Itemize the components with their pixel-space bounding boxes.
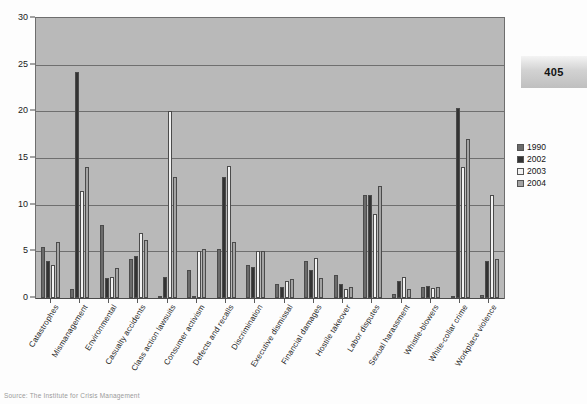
bar-2003 bbox=[431, 288, 435, 298]
bar-1990 bbox=[100, 225, 104, 298]
bar-2004 bbox=[495, 259, 499, 298]
bar-1990 bbox=[421, 287, 425, 298]
bar-2002 bbox=[309, 270, 313, 298]
bar-2003 bbox=[80, 191, 84, 298]
bar-2004 bbox=[144, 240, 148, 298]
legend-item-2003: 2003 bbox=[517, 166, 546, 176]
bar-1990 bbox=[70, 289, 74, 298]
bar-1990 bbox=[217, 249, 221, 298]
bar-group bbox=[153, 18, 182, 298]
legend-item-2002: 2002 bbox=[517, 154, 546, 164]
y-tick-label: 25 bbox=[18, 59, 28, 69]
bar-2002 bbox=[397, 281, 401, 298]
bar-2002 bbox=[163, 277, 167, 298]
bar-2003 bbox=[256, 251, 260, 298]
bar-1990 bbox=[363, 195, 367, 298]
bar-2003 bbox=[285, 281, 289, 298]
bar-2004 bbox=[319, 278, 323, 298]
bar-2003 bbox=[461, 167, 465, 298]
bar-2002 bbox=[134, 256, 138, 298]
y-tick-label: 20 bbox=[18, 105, 28, 115]
bar-2004 bbox=[466, 139, 470, 298]
bar-1990 bbox=[451, 296, 455, 298]
bar-2003 bbox=[110, 277, 114, 298]
legend-label: 1990 bbox=[527, 142, 546, 152]
bars-container bbox=[36, 18, 504, 298]
legend-swatch-icon bbox=[517, 156, 524, 163]
bar-2004 bbox=[436, 287, 440, 298]
bar-2003 bbox=[373, 214, 377, 298]
bar-1990 bbox=[275, 284, 279, 298]
bar-2003 bbox=[402, 277, 406, 298]
bar-group bbox=[299, 18, 328, 298]
bar-group bbox=[65, 18, 94, 298]
bar-1990 bbox=[187, 270, 191, 298]
bar-group bbox=[416, 18, 445, 298]
bar-2002 bbox=[485, 261, 489, 298]
legend-label: 2003 bbox=[527, 166, 546, 176]
bar-group bbox=[475, 18, 504, 298]
bar-2002 bbox=[368, 195, 372, 298]
bar-2003 bbox=[197, 251, 201, 298]
y-axis: 051015202530 bbox=[0, 17, 35, 299]
bar-2002 bbox=[222, 177, 226, 298]
bar-2003 bbox=[168, 111, 172, 298]
bar-2002 bbox=[46, 261, 50, 298]
y-tick-label: 10 bbox=[18, 199, 28, 209]
bar-2003 bbox=[51, 265, 55, 298]
bar-1990 bbox=[480, 295, 484, 298]
bar-2004 bbox=[261, 251, 265, 298]
bar-group bbox=[241, 18, 270, 298]
legend-item-1990: 1990 bbox=[517, 142, 546, 152]
bar-1990 bbox=[129, 259, 133, 298]
legend-swatch-icon bbox=[517, 144, 524, 151]
bar-2004 bbox=[232, 242, 236, 298]
chart-plot-area bbox=[35, 17, 505, 299]
bar-2002 bbox=[192, 296, 196, 298]
bar-2002 bbox=[456, 108, 460, 298]
page-number-badge: 405 bbox=[521, 56, 587, 88]
bar-2004 bbox=[173, 177, 177, 298]
bar-2004 bbox=[56, 242, 60, 298]
bar-group bbox=[270, 18, 299, 298]
bar-group bbox=[446, 18, 475, 298]
y-tick-label: 0 bbox=[23, 292, 28, 302]
bar-1990 bbox=[158, 296, 162, 298]
bar-2003 bbox=[490, 195, 494, 298]
bar-group bbox=[329, 18, 358, 298]
x-tick-label: Catastrophes bbox=[27, 303, 60, 349]
y-tick-label: 30 bbox=[18, 12, 28, 22]
bar-2003 bbox=[344, 289, 348, 298]
bar-2003 bbox=[227, 166, 231, 298]
bar-group bbox=[358, 18, 387, 298]
bar-group bbox=[124, 18, 153, 298]
x-axis-labels: CatastrophesMismanagementEnvironmentalCa… bbox=[35, 303, 505, 387]
chart-legend: 1990200220032004 bbox=[517, 142, 546, 188]
bar-1990 bbox=[392, 294, 396, 298]
bar-2003 bbox=[139, 233, 143, 298]
bar-2004 bbox=[85, 167, 89, 298]
bar-group bbox=[36, 18, 65, 298]
bar-group bbox=[182, 18, 211, 298]
page-number: 405 bbox=[544, 66, 563, 78]
bar-2002 bbox=[339, 284, 343, 298]
bar-1990 bbox=[304, 261, 308, 298]
bar-group bbox=[95, 18, 124, 298]
bar-2004 bbox=[290, 279, 294, 298]
bar-2004 bbox=[115, 268, 119, 298]
bar-2004 bbox=[202, 249, 206, 298]
bar-2004 bbox=[407, 289, 411, 298]
bar-2002 bbox=[426, 286, 430, 298]
book-page: 405 051015202530 CatastrophesMismanageme… bbox=[0, 0, 587, 404]
bar-1990 bbox=[246, 265, 250, 298]
legend-item-2004: 2004 bbox=[517, 178, 546, 188]
y-tick-label: 15 bbox=[18, 152, 28, 162]
legend-label: 2002 bbox=[527, 154, 546, 164]
source-note: Source: The Institute for Crisis Managem… bbox=[4, 392, 140, 399]
bar-1990 bbox=[41, 247, 45, 298]
bar-2002 bbox=[105, 278, 109, 298]
bar-2002 bbox=[280, 287, 284, 298]
bar-1990 bbox=[334, 275, 338, 298]
bar-group bbox=[212, 18, 241, 298]
bar-2002 bbox=[251, 267, 255, 298]
